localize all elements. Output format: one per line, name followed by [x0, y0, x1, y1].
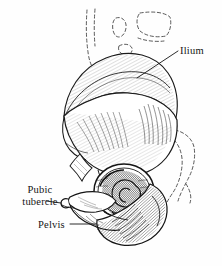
label-pelvis-text: Pelvis	[38, 219, 65, 231]
pelvis-illustration-svg	[0, 0, 222, 266]
label-pubic-tubercle-line1: Pubic	[10, 184, 70, 196]
label-pelvis: Pelvis	[38, 219, 65, 231]
label-pubic-tubercle-line2: tubercle	[10, 196, 70, 208]
label-ilium: Ilium	[180, 45, 204, 57]
label-ilium-text: Ilium	[180, 45, 204, 57]
label-pubic-tubercle: Pubic tubercle	[10, 184, 70, 207]
pelvis-figure: Ilium Pubic tubercle Pelvis	[0, 0, 222, 266]
